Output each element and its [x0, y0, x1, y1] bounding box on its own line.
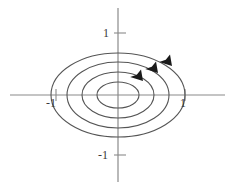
tick-label-x-positive: 1: [180, 97, 186, 109]
direction-arrow-outer-icon: [159, 55, 176, 71]
axes-group: [10, 8, 225, 182]
tick-label-y-negative: -1: [98, 149, 108, 161]
tick-label-y-positive: 1: [103, 27, 109, 39]
tick-label-x-negative: -1: [46, 97, 56, 109]
phase-portrait-canvas: [0, 0, 234, 190]
direction-arrow-inner-icon: [130, 70, 147, 86]
phase-portrait-figure: 1 -1 -1 1: [0, 0, 234, 190]
